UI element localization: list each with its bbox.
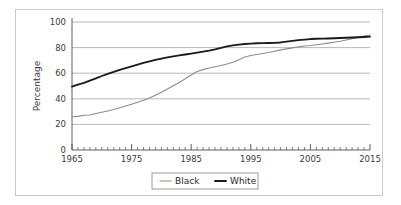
y-axis-title: Percentage — [32, 60, 42, 111]
svg-text:1975: 1975 — [121, 154, 143, 164]
svg-text:40: 40 — [55, 94, 66, 104]
svg-text:1985: 1985 — [180, 154, 202, 164]
chart-legend: BlackWhite — [152, 173, 258, 189]
svg-text:White: White — [230, 176, 257, 186]
svg-text:Black: Black — [175, 176, 200, 186]
svg-text:Percentage: Percentage — [32, 60, 42, 111]
x-axis-tick-labels: 196519751985199520052015 — [61, 154, 381, 164]
svg-text:60: 60 — [55, 68, 66, 78]
y-axis-tick-labels: 020406080100 — [50, 17, 66, 155]
svg-text:100: 100 — [50, 17, 66, 27]
svg-text:2015: 2015 — [359, 154, 381, 164]
svg-text:20: 20 — [55, 119, 66, 129]
x-axis-ticks — [72, 144, 370, 150]
svg-text:1965: 1965 — [61, 154, 83, 164]
svg-text:2005: 2005 — [300, 154, 322, 164]
svg-text:1995: 1995 — [240, 154, 262, 164]
chart-figure: 020406080100 196519751985199520052015 Pe… — [0, 0, 401, 205]
line-chart: 020406080100 196519751985199520052015 Pe… — [0, 0, 401, 205]
svg-text:80: 80 — [55, 43, 66, 53]
